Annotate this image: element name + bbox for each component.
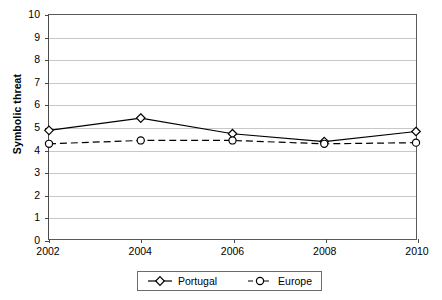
y-tick-label: 5 [18,122,40,132]
y-tick-label: 2 [18,190,40,200]
y-tick-label: 7 [18,77,40,87]
x-tickmark [418,239,419,243]
marker-circle [412,139,419,146]
x-tick-label: 2004 [115,245,165,257]
x-tickmark [141,239,142,243]
legend-label: Europe [278,275,312,287]
y-tick-label: 10 [18,9,40,19]
y-tick-label: 8 [18,54,40,64]
series-europe [45,137,419,147]
x-tickmark [49,239,50,243]
chart-legend: PortugalEurope [137,271,322,291]
x-tickmark [326,239,327,243]
legend-entry-europe[interactable]: Europe [247,275,312,287]
x-tick-label: 2002 [23,245,73,257]
y-tick-label: 1 [18,212,40,222]
y-tick-label: 9 [18,32,40,42]
x-tick-label: 2010 [392,245,442,257]
marker-diamond [136,114,145,123]
x-tick-label: 2006 [208,245,258,257]
x-tickmark [234,239,235,243]
y-tick-label: 0 [18,235,40,245]
y-tick-label: 3 [18,167,40,177]
marker-circle [45,140,52,147]
marker-circle [321,140,328,147]
legend-marker-circle-icon [247,275,273,287]
plot-area [48,14,417,240]
y-tick-label: 6 [18,99,40,109]
marker-circle [229,137,236,144]
y-tick-label: 4 [18,145,40,155]
data-series-layer [49,15,416,239]
x-tick-label: 2008 [300,245,350,257]
symbolic-threat-line-chart: Symbolic threat 012345678910 20022004200… [0,0,442,300]
legend-label: Portugal [178,275,217,287]
legend-marker-diamond-icon [147,275,173,287]
legend-entry-portugal[interactable]: Portugal [147,275,217,287]
marker-circle [137,137,144,144]
marker-diamond [412,127,421,136]
